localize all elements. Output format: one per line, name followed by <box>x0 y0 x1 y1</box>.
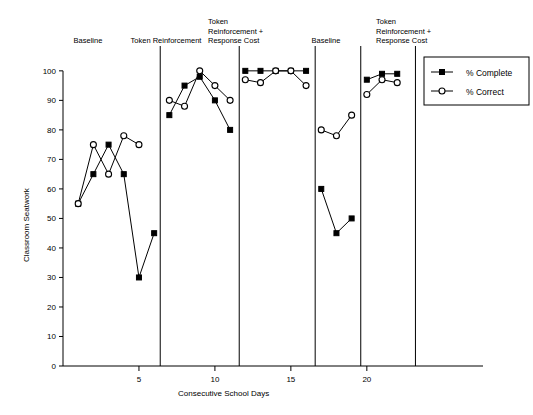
data-point-complete-4-0 <box>364 77 369 82</box>
data-point-complete-3-2 <box>349 216 354 221</box>
legend-label-1: % Correct <box>466 87 504 97</box>
x-tick-label-10: 10 <box>210 375 219 384</box>
data-point-complete-1-4 <box>228 127 233 132</box>
y-tick-label-50: 50 <box>47 214 56 223</box>
data-point-correct-1-3 <box>212 83 218 89</box>
data-point-correct-3-0 <box>318 127 324 133</box>
data-point-correct-2-3 <box>288 68 294 74</box>
y-tick-label-10: 10 <box>47 332 56 341</box>
y-tick-label-70: 70 <box>47 155 56 164</box>
x-tick-label-15: 15 <box>286 375 295 384</box>
y-tick-label-90: 90 <box>47 96 56 105</box>
y-tick-label-100: 100 <box>43 67 57 76</box>
data-point-complete-2-1 <box>258 68 263 73</box>
data-point-correct-2-2 <box>273 68 279 74</box>
chart-figure: Baseline Token Reinforcement Token Reinf… <box>0 0 533 415</box>
data-point-correct-1-4 <box>227 97 233 103</box>
series-line-complete-0 <box>78 145 154 278</box>
legend-marker-filled-square <box>440 70 445 75</box>
x-tick-label-5: 5 <box>137 375 142 384</box>
data-point-correct-1-0 <box>166 97 172 103</box>
data-point-complete-4-1 <box>380 71 385 76</box>
data-point-complete-3-0 <box>319 186 324 191</box>
x-tick-label-20: 20 <box>362 375 371 384</box>
data-point-complete-0-4 <box>136 275 141 280</box>
plot-area: 01020304050607080901005101520% Complete%… <box>0 0 533 415</box>
data-point-correct-0-0 <box>75 201 81 207</box>
y-tick-label-30: 30 <box>47 273 56 282</box>
data-point-correct-3-2 <box>349 112 355 118</box>
y-tick-label-0: 0 <box>52 362 57 371</box>
y-tick-label-80: 80 <box>47 126 56 135</box>
data-point-complete-0-5 <box>152 231 157 236</box>
data-point-correct-1-2 <box>197 68 203 74</box>
legend-box <box>424 57 529 105</box>
data-point-correct-1-1 <box>182 103 188 109</box>
legend-label-0: % Complete <box>466 68 513 78</box>
data-point-correct-3-1 <box>333 133 339 139</box>
data-point-complete-1-3 <box>212 98 217 103</box>
data-point-complete-4-2 <box>395 71 400 76</box>
y-tick-label-40: 40 <box>47 244 56 253</box>
data-point-complete-0-1 <box>91 172 96 177</box>
data-point-complete-1-1 <box>182 83 187 88</box>
data-point-correct-2-0 <box>242 77 248 83</box>
data-point-complete-2-0 <box>243 68 248 73</box>
data-point-complete-3-1 <box>334 231 339 236</box>
legend-marker-open-circle <box>439 88 445 94</box>
data-point-complete-0-3 <box>121 172 126 177</box>
y-tick-label-20: 20 <box>47 303 56 312</box>
data-point-correct-0-3 <box>121 133 127 139</box>
data-point-complete-1-0 <box>167 113 172 118</box>
data-point-complete-2-4 <box>304 68 309 73</box>
series-line-complete-3 <box>321 189 351 233</box>
data-point-correct-2-1 <box>257 80 263 86</box>
data-point-correct-0-2 <box>106 171 112 177</box>
data-point-correct-0-1 <box>90 142 96 148</box>
data-point-correct-2-4 <box>303 83 309 89</box>
y-tick-label-60: 60 <box>47 185 56 194</box>
data-point-complete-0-2 <box>106 142 111 147</box>
data-point-correct-4-2 <box>394 80 400 86</box>
data-point-correct-4-0 <box>364 91 370 97</box>
data-point-correct-0-4 <box>136 142 142 148</box>
series-line-complete-1 <box>169 77 230 130</box>
data-point-correct-4-1 <box>379 77 385 83</box>
data-point-complete-1-2 <box>197 74 202 79</box>
